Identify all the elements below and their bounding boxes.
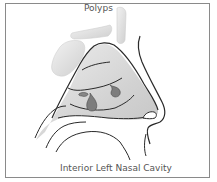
lip-line — [145, 134, 147, 156]
polyps-label: Polyps — [84, 3, 113, 13]
frontal-bone-shape — [117, 7, 126, 43]
palate-line-lower — [46, 122, 86, 148]
ethmoid-bone-shape — [71, 25, 112, 39]
tongue-outline — [56, 131, 130, 160]
diagram-caption: Interior Left Nasal Cavity — [60, 163, 172, 173]
nasal-cavity-illustration — [0, 0, 217, 182]
polyp-small — [79, 93, 88, 97]
